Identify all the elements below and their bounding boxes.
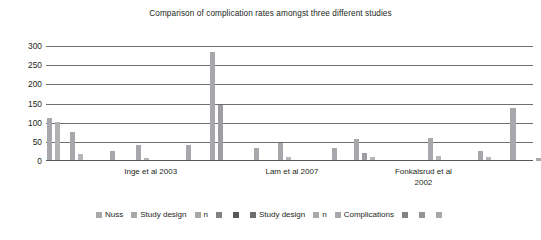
bar: [70, 132, 75, 161]
legend-item[interactable]: [233, 212, 242, 218]
legend-label: n: [204, 210, 208, 219]
bar: [136, 145, 141, 161]
legend-label: Study design: [140, 210, 186, 219]
legend-swatch-icon: [436, 212, 442, 218]
y-axis-tick-label: 100: [2, 118, 42, 126]
bar: [210, 52, 215, 161]
y-axis-tick-label: 150: [2, 99, 42, 107]
gridline: [46, 142, 533, 143]
legend-label: Nuss: [105, 210, 123, 219]
x-axis-category-label: Lam et al 2007: [257, 167, 327, 178]
y-axis-tick-label: 250: [2, 61, 42, 69]
chart-root: Comparison of complication rates amongst…: [0, 0, 541, 240]
legend-label: Study design: [259, 210, 305, 219]
bar: [55, 122, 60, 161]
legend-swatch-icon: [233, 212, 239, 218]
y-axis-tick-label: 200: [2, 80, 42, 88]
bar: [218, 105, 223, 161]
legend-swatch-icon: [96, 212, 102, 218]
legend-swatch-icon: [195, 212, 201, 218]
legend-swatch-icon: [131, 212, 137, 218]
legend-item[interactable]: [402, 212, 411, 218]
x-axis-category-label: Fonkalsrud et al 2002: [388, 167, 458, 188]
bar: [47, 118, 52, 161]
legend-item[interactable]: [436, 212, 445, 218]
x-axis-line: [46, 160, 533, 161]
chart-title: Comparison of complication rates amongst…: [0, 8, 541, 20]
legend-item[interactable]: Nuss: [96, 210, 123, 219]
bar: [186, 145, 191, 161]
bar: [428, 138, 433, 161]
bar: [536, 158, 541, 161]
legend-swatch-icon: [419, 212, 425, 218]
y-axis-tick-label: 50: [2, 138, 42, 146]
plot-area: [46, 46, 533, 161]
legend-swatch-icon: [335, 212, 341, 218]
gridline: [46, 65, 533, 66]
gridline: [46, 104, 533, 105]
legend-item[interactable]: [419, 212, 428, 218]
y-axis-tick-label: 0: [2, 157, 42, 165]
bar: [278, 143, 283, 161]
legend-swatch-icon: [402, 212, 408, 218]
legend-item[interactable]: n: [313, 210, 326, 219]
legend-swatch-icon: [250, 212, 256, 218]
legend-item[interactable]: Study design: [131, 210, 186, 219]
legend-item[interactable]: Complications: [335, 210, 394, 219]
legend-item[interactable]: Study design: [250, 210, 305, 219]
legend-label: Complications: [344, 210, 394, 219]
gridline: [46, 46, 533, 47]
legend-item[interactable]: [216, 212, 225, 218]
legend-label: n: [322, 210, 326, 219]
bar: [354, 139, 359, 161]
legend-swatch-icon: [313, 212, 319, 218]
legend-swatch-icon: [216, 212, 222, 218]
gridline: [46, 123, 533, 124]
x-axis-labels: Inge et al 2003Lam et al 2007Fonkalsrud …: [46, 167, 533, 195]
gridline: [46, 84, 533, 85]
chart-legend: NussStudy designnStudy designnComplicati…: [0, 210, 541, 219]
y-axis-tick-label: 300: [2, 42, 42, 50]
legend-item[interactable]: n: [195, 210, 208, 219]
bar: [510, 108, 516, 161]
y-axis-labels: 050100150200250300: [0, 46, 42, 161]
x-axis-category-label: Inge et al 2003: [116, 167, 186, 178]
